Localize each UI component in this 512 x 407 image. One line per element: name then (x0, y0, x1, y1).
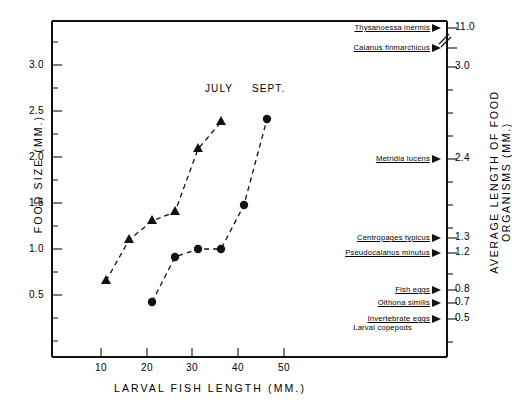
series-sept-markers (148, 115, 271, 306)
series-july-line (106, 122, 221, 281)
series-july-markers (101, 116, 226, 284)
series-sept (148, 115, 271, 306)
series-label-sept: SEPT. (252, 83, 285, 94)
y-axis-minor-ticks (52, 42, 58, 341)
x-tick-label-20: 20 (135, 362, 159, 373)
x-tick-label-50: 50 (272, 362, 296, 373)
x-axis-title: LARVAL FISH LENGTH (MM.) (60, 382, 360, 394)
species-label-invertebrate-eggs: Invertebrate eggs (230, 314, 430, 323)
species-label-larval-copepods: Larval copepods (230, 323, 430, 332)
y-tick-label-3.0: 3.0 (14, 59, 44, 70)
series-sept-line (152, 119, 267, 302)
species-label-calanus-finmarchicus: Calanus finmarchicus (230, 43, 430, 52)
y2-label-1.3: 1.3 (455, 231, 485, 242)
y2-label-11.0: 11.0 (455, 21, 485, 32)
axis-break-mark (439, 34, 451, 47)
species-label-centropages-typicus: Centropages typicus (230, 233, 430, 242)
series-label-july: JULY (205, 83, 233, 94)
x-tick-label-10: 10 (89, 362, 113, 373)
species-label-pseudocalanus-minutus: Pseudocalanus minutus (230, 248, 430, 257)
x-tick-label-30: 30 (180, 362, 204, 373)
species-label-metridia-lucens: Metridia lucens (230, 154, 430, 163)
y2-label-0.8: 0.8 (455, 283, 485, 294)
y2-axis-ticks (447, 28, 457, 342)
species-pointer-arrows (432, 24, 441, 323)
species-label-thysanoessa-inermis: Thysanoessa inermis (230, 23, 430, 32)
y2-label-1.2: 1.2 (455, 246, 485, 257)
y2-label-0.7: 0.7 (455, 296, 485, 307)
series-july (101, 116, 226, 284)
x-tick-label-40: 40 (226, 362, 250, 373)
y2-label-3.0: 3.0 (455, 60, 485, 71)
x-axis-major-ticks (101, 348, 284, 357)
species-label-fish-eggs: Fish eggs (230, 285, 430, 294)
y2-axis-title: AVERAGE LENGTH OF FOOD ORGANISMS (MM.) (488, 52, 512, 312)
y2-label-2.4: 2.4 (455, 152, 485, 163)
species-label-oithona-similis: Oithona similis (230, 298, 430, 307)
y2-label-0.5: 0.5 (455, 312, 485, 323)
y-axis-title: FOOD SIZE (MM.) (32, 94, 44, 254)
y-tick-label-0.5: 0.5 (14, 289, 44, 300)
